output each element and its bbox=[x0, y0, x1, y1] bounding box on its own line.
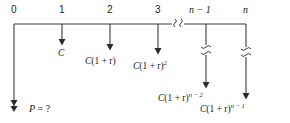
axis-break-squiggle-icon bbox=[174, 19, 183, 27]
tick-label-1: 1 bbox=[59, 5, 65, 15]
cash-flow-label-n-minus-1: C(1 + r)n − 2 bbox=[158, 94, 203, 104]
present-value-label: P = ? bbox=[29, 104, 50, 114]
cash-flow-label-1: C bbox=[58, 49, 64, 59]
cash-flow-label-3-exponent: 2 bbox=[164, 59, 167, 66]
present-value-arrowhead-upper bbox=[11, 100, 18, 106]
cash-flow-arrowhead-n bbox=[243, 93, 250, 100]
present-value-arrowhead-lower bbox=[11, 106, 18, 112]
cash-flow-arrowhead-3 bbox=[155, 48, 162, 55]
cash-flow-break-squiggle-n-icon bbox=[241, 48, 251, 57]
cash-flow-label-3-factor: (1 + r) bbox=[139, 61, 163, 71]
cash-flow-label-2-factor: (1 + r) bbox=[91, 56, 115, 66]
cash-flow-timeline-diagram: 0 1 2 3 n − 1 n C C(1 + r) C(1 + r)2 C(1… bbox=[0, 0, 290, 123]
cash-flow-label-3: C(1 + r)2 bbox=[133, 62, 167, 72]
cash-flow-label-2: C(1 + r) bbox=[85, 57, 116, 67]
tick-label-3: 3 bbox=[155, 5, 161, 15]
cash-flow-label-n-minus-1-factor: (1 + r) bbox=[164, 93, 188, 103]
cash-flow-arrowhead-2 bbox=[107, 44, 114, 51]
cash-flow-label-n-exponent: n − 1 bbox=[231, 102, 245, 109]
tick-label-n: n bbox=[243, 5, 248, 15]
cash-flow-label-n-minus-1-exponent: n − 2 bbox=[189, 91, 203, 98]
tick-label-n-minus-1: n − 1 bbox=[189, 5, 211, 15]
present-value-rest: = ? bbox=[35, 103, 50, 114]
tick-label-2: 2 bbox=[107, 5, 113, 15]
cash-flow-label-n: C(1 + r)n − 1 bbox=[200, 105, 245, 115]
cash-flow-arrowhead-n-minus-1 bbox=[203, 82, 210, 89]
tick-label-0: 0 bbox=[11, 5, 17, 15]
cash-flow-break-squiggle-n-minus-1-icon bbox=[201, 46, 211, 55]
cash-flow-arrowhead-1 bbox=[59, 39, 66, 46]
cash-flow-label-1-base: C bbox=[58, 48, 64, 58]
cash-flow-label-n-factor: (1 + r) bbox=[206, 104, 230, 114]
